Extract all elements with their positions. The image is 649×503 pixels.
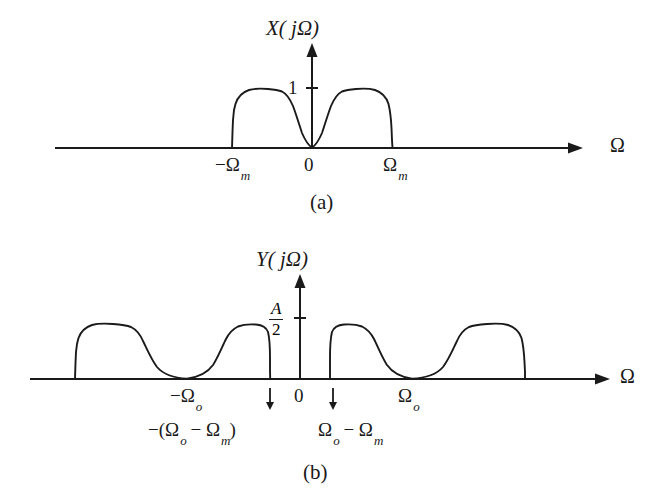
panel-b-left-carrier-symbol: −Ω <box>170 385 195 406</box>
panel-a-right-band-edge-label: Ωm <box>383 155 407 178</box>
panel-b-lower-sideband-curve <box>75 324 270 379</box>
panel-b-axis-arrowhead <box>595 374 610 385</box>
panel-a-right-band-edge-subscript: m <box>398 168 407 183</box>
left-expr-close: ) <box>229 419 235 440</box>
panel-b-vertical-arrowhead <box>295 274 306 288</box>
right-expr-mid: − Ω <box>339 419 373 440</box>
panel-a-caption: (a) <box>310 192 333 213</box>
panel-b-caption: (b) <box>303 462 328 483</box>
panel-b-upper-sideband-curve <box>330 324 525 379</box>
panel-a-amplitude-tick-label: 1 <box>288 78 298 97</box>
panel-b-right-edge-expression: Ωo − Ωm <box>318 420 382 443</box>
right-expr-sub2: m <box>374 433 383 448</box>
panel-a-left-band-edge-label: −Ωm <box>215 155 249 178</box>
left-expr-sub2: m <box>221 433 230 448</box>
panel-b <box>30 274 610 410</box>
panel-a-vertical-arrowhead <box>307 43 318 57</box>
left-expr-open: −(Ω <box>148 419 179 440</box>
panel-b-right-carrier-symbol: Ω <box>398 385 412 406</box>
panel-a-left-band-edge-symbol: −Ω <box>215 154 240 175</box>
panel-b-axis-label: Ω <box>620 366 635 386</box>
panel-b-amplitude-numerator: A <box>269 300 283 318</box>
left-expr-sub1: o <box>180 433 187 448</box>
panel-a <box>55 43 583 154</box>
panel-a-axis-label: Ω <box>610 135 625 155</box>
panel-b-right-edge-marker <box>329 388 337 410</box>
panel-b-left-carrier-subscript: o <box>196 399 203 414</box>
panel-b-amplitude-tick-label: A 2 <box>269 300 283 339</box>
left-expr-mid: − Ω <box>186 419 220 440</box>
panel-b-origin-label: 0 <box>294 386 304 405</box>
panel-a-axis-arrowhead <box>568 143 583 154</box>
panel-b-left-edge-marker <box>266 388 274 410</box>
panel-a-origin-label: 0 <box>304 155 314 174</box>
right-expr-sub1: o <box>333 433 340 448</box>
panel-a-left-band-edge-subscript: m <box>241 168 250 183</box>
panel-a-right-band-edge-symbol: Ω <box>383 154 397 175</box>
panel-b-title: Y( jΩ) <box>256 249 308 270</box>
panel-b-right-carrier-label: Ωo <box>398 386 419 409</box>
panel-a-title: X( jΩ) <box>266 18 319 39</box>
panel-b-amplitude-denominator: 2 <box>269 321 283 339</box>
panel-b-left-carrier-label: −Ωo <box>170 386 201 409</box>
right-expr-open: Ω <box>318 419 332 440</box>
panel-b-left-edge-expression: −(Ωo − Ωm) <box>148 420 236 443</box>
panel-b-right-carrier-subscript: o <box>413 399 420 414</box>
